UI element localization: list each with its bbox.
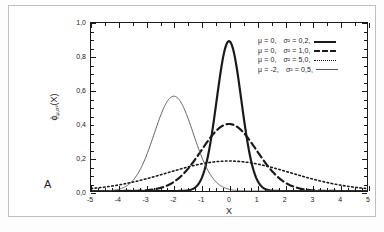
y-tick-right [364,32,367,33]
y-tick-right [364,66,367,67]
y-tick-right [364,176,367,177]
x-tick-label: -2 [170,196,176,203]
y-tick-left [91,159,96,160]
x-tick-bottom [286,186,287,191]
y-tick-left [91,57,96,58]
y-tick-label: 0,2 [68,155,86,162]
legend-sigma-3: σ² = 0,5, [286,66,313,73]
y-tick-left [91,66,94,67]
x-tick-top [119,23,120,28]
x-tick-top [133,23,134,26]
x-tick-bottom [161,188,162,191]
x-tick-bottom [223,188,224,191]
x-tick-bottom [300,188,301,191]
y-tick-right [362,91,367,92]
x-tick-top [216,23,217,26]
x-tick-top [355,23,356,26]
y-tick-left [91,100,94,101]
x-tick-top [161,23,162,26]
x-tick-bottom [341,186,342,191]
legend-line-sample-1 [314,46,336,55]
legend-row-2: μ = 0,σ² = 5,0, [258,55,338,65]
x-tick-bottom [154,188,155,191]
x-tick-top [105,23,106,26]
legend-sigma-2: σ² = 5,0, [283,56,310,63]
x-tick-bottom [313,186,314,191]
y-tick-left [91,134,94,135]
y-tick-left [91,108,94,109]
x-tick-bottom [188,188,189,191]
legend-mu-1: μ = 0, [258,47,276,54]
x-tick-bottom [195,188,196,191]
y-tick-left [91,193,96,194]
legend-mu-0: μ = 0, [258,37,276,44]
y-tick-left [91,32,94,33]
y-tick-left [91,176,94,177]
x-tick-bottom [320,188,321,191]
y-tick-left [91,142,94,143]
x-tick-label: 2 [283,196,287,203]
y-tick-label: 1,0 [68,19,86,26]
x-axis-title: X [90,206,368,216]
x-tick-bottom [369,186,370,191]
y-tick-right [364,100,367,101]
y-tick-left [91,40,94,41]
y-tick-left [91,74,94,75]
figure-panel: A ϕμ,σ²(X) X -5-4-3-2-1012345 0,00,20,40… [0,0,384,232]
y-tick-right [362,193,367,194]
y-tick-left [91,168,94,169]
legend: μ = 0,σ² = 0,2,μ = 0,σ² = 1,0,μ = 0,σ² =… [258,36,338,74]
y-tick-right [364,134,367,135]
legend-label-0: μ = 0,σ² = 0,2, [258,37,311,44]
y-tick-left [91,49,94,50]
curve-series-3 [91,96,367,191]
legend-row-3: μ = -2,σ² = 0,5, [258,65,338,75]
x-tick-bottom [362,188,363,191]
legend-sigma-1: σ² = 1,0, [283,47,310,54]
x-tick-label: 5 [366,196,370,203]
y-axis-title-subscript: μ,σ² [54,106,60,116]
x-tick-bottom [167,188,168,191]
y-tick-label: 0,8 [68,53,86,60]
x-tick-bottom [237,188,238,191]
x-tick-bottom [293,188,294,191]
x-tick-top [230,23,231,28]
y-tick-left [91,125,94,126]
y-tick-right [364,74,367,75]
x-tick-bottom [251,188,252,191]
legend-row-0: μ = 0,σ² = 0,2, [258,36,338,46]
y-tick-right [364,151,367,152]
x-tick-top [147,23,148,28]
y-tick-right [364,40,367,41]
y-tick-right [364,108,367,109]
x-tick-bottom [244,188,245,191]
y-tick-left [91,151,94,152]
x-tick-label: 4 [338,196,342,203]
y-tick-right [364,125,367,126]
legend-label-2: μ = 0,σ² = 5,0, [258,56,311,63]
x-tick-bottom [133,188,134,191]
curve-series-2 [91,161,367,189]
x-tick-top [327,23,328,26]
x-tick-bottom [306,188,307,191]
y-axis-title: ϕμ,σ²(X) [49,94,60,121]
y-tick-right [364,142,367,143]
y-tick-label: 0,0 [68,189,86,196]
y-tick-right [364,83,367,84]
x-tick-label: 0 [227,196,231,203]
x-tick-bottom [272,188,273,191]
y-axis-title-phi: ϕ [49,115,59,120]
x-tick-bottom [209,188,210,191]
legend-line-sample-0 [314,36,336,45]
x-tick-bottom [258,186,259,191]
x-tick-bottom [112,188,113,191]
y-tick-left [91,83,94,84]
x-tick-bottom [230,186,231,191]
x-tick-top [341,23,342,28]
legend-mu-2: μ = 0, [258,56,276,63]
x-tick-bottom [202,186,203,191]
y-tick-left [91,117,94,118]
x-tick-bottom [327,188,328,191]
legend-line-sample-2 [314,55,336,64]
x-tick-label: -5 [87,196,93,203]
